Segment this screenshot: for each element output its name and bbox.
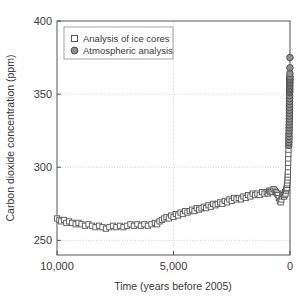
x-axis-title: Time (years before 2005): [114, 280, 232, 292]
series-atmospheric-analysis: [286, 54, 294, 148]
co2-concentration-chart-figure: 250300350400 10,0005,0000 Analysis of ic…: [0, 0, 308, 305]
x-tick-label: 5,000: [160, 260, 188, 272]
legend-label-ice-cores: Analysis of ice cores: [83, 33, 170, 44]
atmospheric-data-point: [287, 65, 294, 72]
y-tick-label: 400: [34, 15, 52, 27]
y-tick-label: 300: [34, 161, 52, 173]
x-tick-label: 0: [287, 260, 293, 272]
y-tick-label: 250: [34, 234, 52, 246]
legend-square-open-marker-icon: [72, 36, 78, 42]
legend-circle-filled-marker-icon: [71, 47, 78, 54]
chart-legend: Analysis of ice cores Atmospheric analys…: [64, 27, 173, 59]
legend-label-atmospheric: Atmospheric analysis: [83, 45, 173, 56]
atmospheric-data-point: [287, 54, 294, 61]
y-axis-title: Carbon dioxide concentration (ppm): [4, 55, 16, 222]
x-tick-label: 10,000: [40, 260, 74, 272]
y-tick-label: 350: [34, 88, 52, 100]
chart-canvas: 250300350400 10,0005,0000 Analysis of ic…: [0, 0, 308, 305]
